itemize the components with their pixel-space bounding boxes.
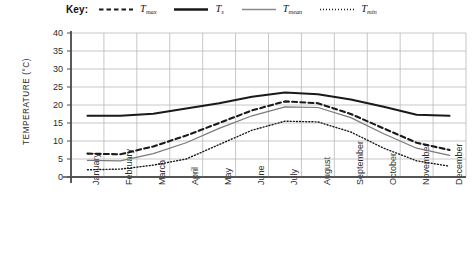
temperature-line-chart: Key: Tmax Ts Tmean Tmin TEMPERA bbox=[0, 0, 476, 260]
plot-area bbox=[0, 0, 476, 260]
